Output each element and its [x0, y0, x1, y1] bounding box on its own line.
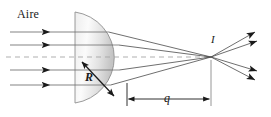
converging-ray-4: [111, 57, 211, 85]
diverging-ray-2: [211, 41, 257, 57]
image-point-label: I: [211, 34, 215, 45]
converging-rays: [109, 32, 211, 85]
diverging-ray-1: [211, 32, 255, 57]
incident-rays: [10, 32, 75, 85]
converging-ray-3: [119, 57, 211, 70]
optics-diagram: Aire R q I: [0, 0, 271, 117]
diverging-rays: [211, 32, 257, 80]
converging-ray-2: [119, 45, 211, 57]
converging-ray-1: [109, 32, 211, 57]
diagram-canvas: [0, 0, 271, 117]
radius-label: R: [85, 71, 93, 83]
medium-label-air: Aire: [17, 8, 39, 20]
image-distance-label: q: [164, 92, 170, 104]
